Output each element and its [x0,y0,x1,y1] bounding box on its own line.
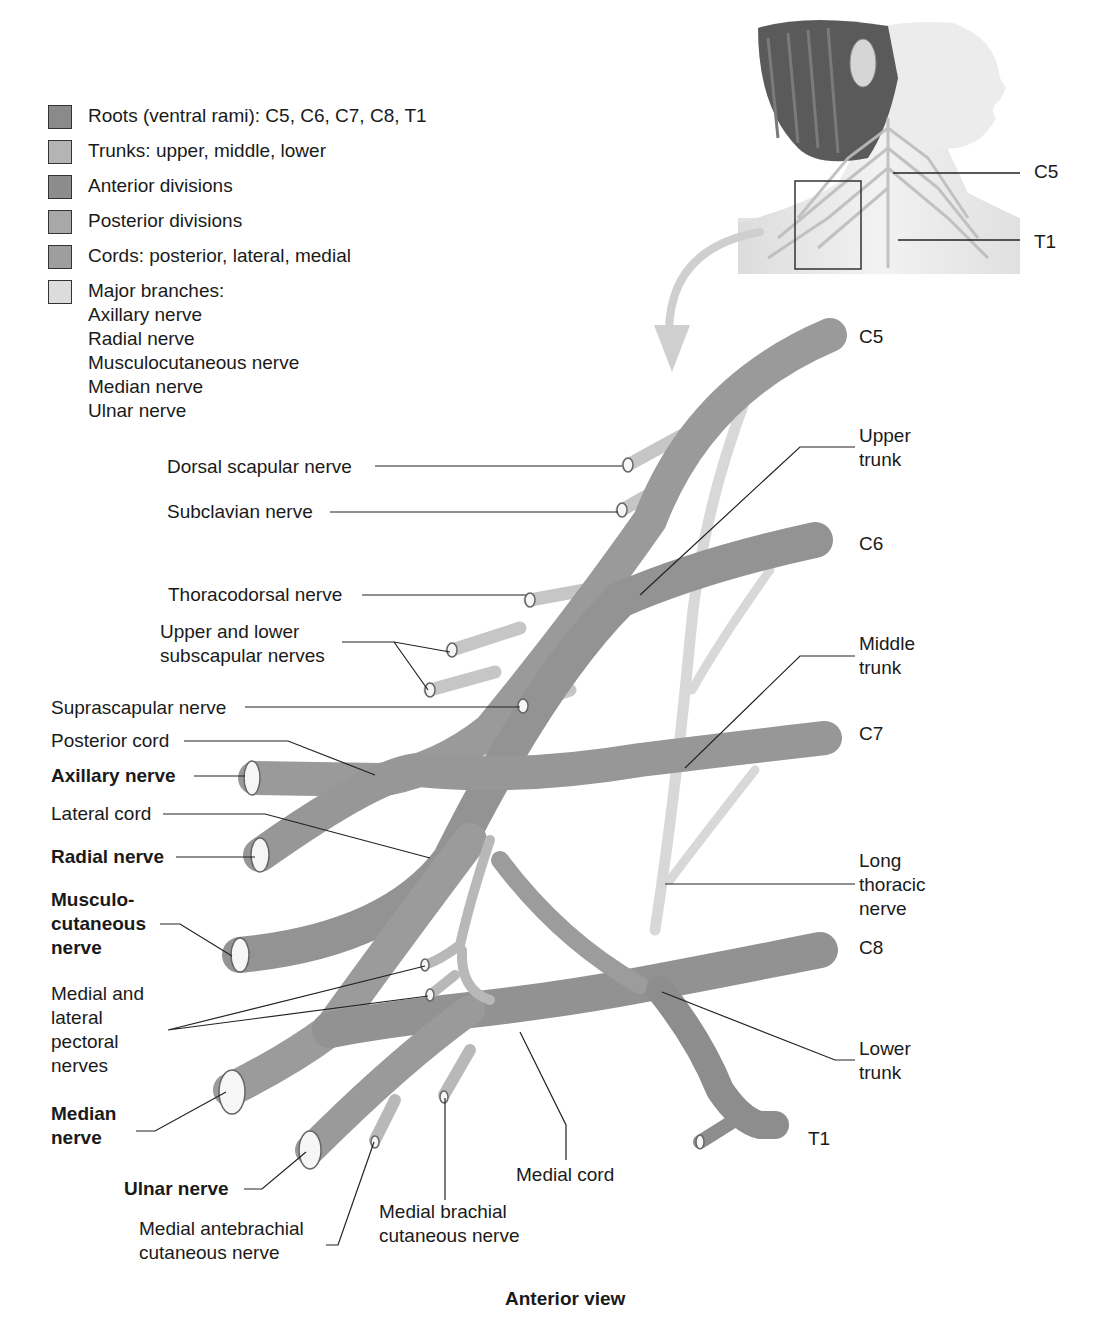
label-radial: Radial nerve [51,845,164,869]
t1-root [660,990,775,1125]
label-subscapular: Upper and lower subscapular nerves [160,620,325,668]
root-label-c6: C6 [859,532,883,556]
label-medial-antebrachial: Medial antebrachial cutaneous nerve [139,1217,304,1265]
root-label-c8: C8 [859,936,883,960]
label-long-thoracic: Long thoracic nerve [859,849,926,921]
axillary-cut-end [244,761,260,795]
label-posterior-cord: Posterior cord [51,729,169,753]
radial-cut-end [251,838,269,872]
lower-subscapular-branch [430,672,495,690]
label-pectoral: Medial and lateral pectoral nerves [51,982,144,1078]
label-medial-brachial: Medial brachial cutaneous nerve [379,1200,520,1248]
label-upper-trunk: Upper trunk [859,424,911,472]
musculocutaneous-cut-end [231,938,249,972]
root-label-c5: C5 [859,325,883,349]
arrow-head-icon [654,325,690,372]
upper-subscapular-branch [452,628,520,650]
label-dorsal-scapular: Dorsal scapular nerve [167,455,352,479]
label-thoracodorsal: Thoracodorsal nerve [168,583,342,607]
median-cut-end [219,1070,245,1114]
label-ulnar: Ulnar nerve [124,1177,229,1201]
c7-middle-trunk [260,738,825,855]
label-axillary: Axillary nerve [51,764,176,788]
label-musculocutaneous: Musculo- cutaneous nerve [51,888,146,960]
label-suprascapular: Suprascapular nerve [51,696,226,720]
root-label-c7: C7 [859,722,883,746]
medial-antebrachial-branch [375,1100,395,1140]
label-middle-trunk: Middle trunk [859,632,915,680]
root-label-t1: T1 [808,1127,830,1151]
label-medial-cord: Medial cord [516,1163,614,1187]
label-lower-trunk: Lower trunk [859,1037,911,1085]
label-lateral-cord: Lateral cord [51,802,151,826]
ulnar-cut-end [299,1131,321,1169]
c8-lower-trunk-medial-cord [330,950,820,1030]
medial-brachial-branch [444,1050,470,1095]
posterior-division-c8 [500,860,640,985]
caption: Anterior view [505,1288,625,1310]
brachial-plexus-diagram [0,0,1097,1339]
label-subclavian: Subclavian nerve [167,500,313,524]
label-median: Median nerve [51,1102,116,1150]
